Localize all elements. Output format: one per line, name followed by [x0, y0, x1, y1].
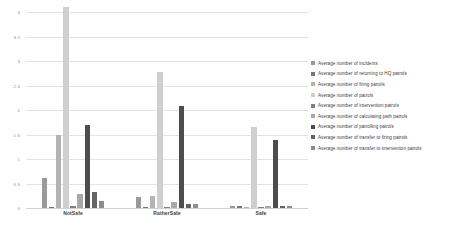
legend-swatch-icon [311, 82, 315, 86]
bar-chart: 43.532.521.510.50 NotSafeRatherSafeSafe … [0, 0, 457, 239]
x-axis-label-notsafe: NotSafe [63, 210, 83, 216]
legend-label: Average number of transfer to interventi… [318, 146, 422, 151]
legend-item[interactable]: Average number of calculating path patro… [311, 111, 457, 122]
y-axis-tick-label: 4 [17, 10, 20, 15]
legend-swatch-icon [311, 114, 315, 118]
bar [244, 207, 249, 208]
y-axis: 43.532.521.510.50 [0, 12, 24, 208]
y-axis-tick-label: 0 [17, 206, 20, 211]
legend-swatch-icon [311, 72, 315, 76]
bar [258, 207, 263, 208]
bar [92, 192, 97, 208]
bar [179, 106, 184, 208]
bar [85, 125, 90, 208]
bar [136, 197, 141, 208]
legend-label: Average number of intervention patrols [318, 103, 399, 108]
x-axis-label-safe: Safe [256, 210, 267, 216]
bar [237, 206, 242, 208]
bar [49, 207, 54, 208]
bar [251, 127, 256, 208]
bar [280, 206, 285, 208]
legend-label: Average number of incidents [318, 61, 378, 66]
bar [186, 204, 191, 208]
x-axis-category-labels: NotSafeRatherSafeSafe [26, 210, 308, 224]
legend-item[interactable]: Average number of patrolling patrols [311, 122, 457, 133]
y-axis-tick-label: 2.5 [14, 83, 20, 88]
legend-label: Average number of patrols [318, 93, 373, 98]
bar [99, 201, 104, 208]
x-axis-label-rathersafe: RatherSafe [153, 210, 180, 216]
y-axis-tick-label: 3.5 [14, 34, 20, 39]
bar [265, 206, 270, 208]
legend-swatch-icon [311, 135, 315, 139]
legend-label: Average number of firing patrols [318, 82, 385, 87]
legend-item[interactable]: Average number of transfer to interventi… [311, 143, 457, 154]
bar [77, 194, 82, 208]
bar [230, 206, 235, 208]
bar [150, 196, 155, 208]
legend-swatch-icon [311, 104, 315, 108]
chart-legend: Average number of incidentsAverage numbe… [311, 58, 457, 153]
axis-baseline [26, 208, 308, 209]
legend-item[interactable]: Average number of patrols [311, 90, 457, 101]
legend-label: Average number of patrolling patrols [318, 124, 394, 129]
legend-swatch-icon [311, 93, 315, 97]
bar [273, 140, 278, 208]
bar [143, 207, 148, 208]
bars-layer [26, 12, 308, 208]
bar [56, 135, 61, 209]
y-axis-tick-label: 1.5 [14, 132, 20, 137]
legend-swatch-icon [311, 61, 315, 65]
y-axis-tick-label: 0.5 [14, 181, 20, 186]
bar [70, 206, 75, 208]
bar [171, 202, 176, 208]
legend-item[interactable]: Average number of intervention patrols [311, 100, 457, 111]
bar [42, 178, 47, 208]
bar [63, 7, 68, 208]
legend-item[interactable]: Average number of firing patrols [311, 79, 457, 90]
bar [193, 204, 198, 208]
legend-label: Average number of transfer to firing pat… [318, 135, 407, 140]
bar [157, 72, 162, 208]
y-axis-tick-label: 3 [17, 59, 20, 64]
y-axis-tick-label: 1 [17, 157, 20, 162]
legend-swatch-icon [311, 146, 315, 150]
legend-item[interactable]: Average number of returning to HQ patrol… [311, 69, 457, 80]
legend-label: Average number of calculating path patro… [318, 114, 407, 119]
legend-label: Average number of returning to HQ patrol… [318, 71, 407, 76]
legend-item[interactable]: Average number of transfer to firing pat… [311, 132, 457, 143]
y-axis-tick-label: 2 [17, 108, 20, 113]
legend-item[interactable]: Average number of incidents [311, 58, 457, 69]
bar [287, 206, 292, 208]
legend-swatch-icon [311, 125, 315, 129]
bar [164, 207, 169, 208]
